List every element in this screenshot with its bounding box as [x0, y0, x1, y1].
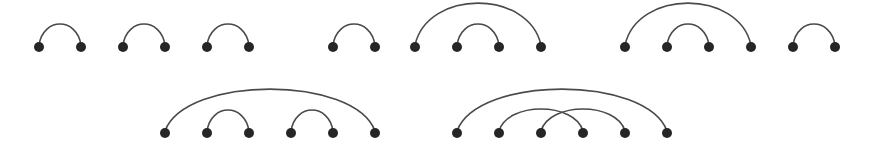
arc-edge [291, 110, 333, 131]
node-dot [202, 42, 212, 52]
node-dot [620, 128, 630, 138]
node-dot [452, 42, 462, 52]
arc-edge [457, 89, 667, 131]
arc-edge [541, 109, 625, 131]
matching-g4 [328, 24, 380, 52]
matching-g2 [118, 24, 170, 52]
matching-g7 [788, 24, 840, 52]
node-dot [494, 42, 504, 52]
arc-edge [499, 109, 583, 131]
arc-edge [39, 24, 81, 45]
matching-g9 [452, 89, 672, 138]
node-dot [536, 128, 546, 138]
node-dot [536, 42, 546, 52]
node-dot [286, 128, 296, 138]
node-dot [662, 42, 672, 52]
node-dot [410, 42, 420, 52]
node-dot [34, 42, 44, 52]
arc-edge [207, 24, 249, 45]
arc-edge [333, 24, 375, 45]
node-dot [494, 128, 504, 138]
matching-g3 [202, 24, 254, 52]
arc-edge [667, 24, 709, 45]
arc-diagram-canvas [0, 0, 870, 150]
node-dot [160, 128, 170, 138]
arc-edge [457, 24, 499, 45]
node-dot [244, 42, 254, 52]
arc-edge [793, 24, 835, 45]
node-dot [328, 128, 338, 138]
node-dot [370, 42, 380, 52]
matching-g1 [34, 24, 86, 52]
arc-edge [207, 110, 249, 131]
arc-diagram-stage [0, 0, 870, 150]
node-dot [160, 42, 170, 52]
node-dot [76, 42, 86, 52]
matching-g8 [160, 89, 380, 138]
node-dot [370, 128, 380, 138]
node-dot [830, 42, 840, 52]
node-dot [452, 128, 462, 138]
arc-edge [165, 89, 375, 131]
matching-g6 [620, 3, 756, 52]
node-dot [746, 42, 756, 52]
node-dot [578, 128, 588, 138]
arc-edge [123, 24, 165, 45]
node-dot [704, 42, 714, 52]
node-dot [328, 42, 338, 52]
node-dot [620, 42, 630, 52]
node-dot [662, 128, 672, 138]
node-dot [788, 42, 798, 52]
node-dot [202, 128, 212, 138]
node-dot [118, 42, 128, 52]
matching-g5 [410, 3, 546, 52]
node-dot [244, 128, 254, 138]
